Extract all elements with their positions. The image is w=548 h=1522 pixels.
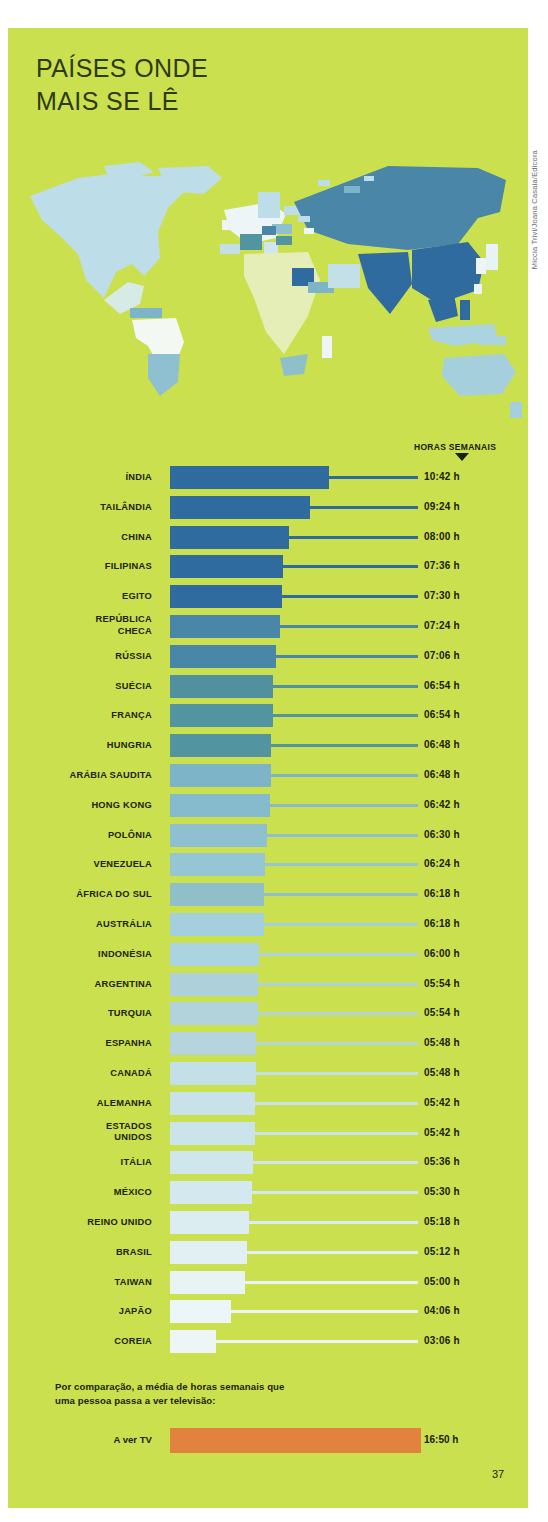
table-row: RÚSSIA07:06 h bbox=[8, 645, 528, 671]
value-bar bbox=[170, 973, 258, 996]
bar-connector-line bbox=[258, 1012, 418, 1015]
value-label: 05:48 h bbox=[424, 1037, 524, 1048]
bar-connector-line bbox=[310, 506, 418, 509]
bar-connector-line bbox=[245, 1281, 418, 1284]
country-label: CANADÁ bbox=[8, 1068, 152, 1080]
country-label: ITÁLIA bbox=[8, 1157, 152, 1169]
country-label-line: COREIA bbox=[8, 1336, 152, 1348]
value-label: 06:42 h bbox=[424, 799, 524, 810]
value-bar bbox=[170, 466, 329, 489]
tv-comparison-row: A ver TV 16:50 h bbox=[8, 1428, 528, 1458]
tv-row-value: 16:50 h bbox=[424, 1434, 524, 1445]
country-label: MÉXICO bbox=[8, 1187, 152, 1199]
country-label-line: HONG KONG bbox=[8, 800, 152, 812]
value-bar bbox=[170, 853, 265, 876]
value-bar bbox=[170, 734, 271, 757]
value-bar bbox=[170, 943, 259, 966]
country-label-line: ÁFRICA DO SUL bbox=[8, 889, 152, 901]
country-label-line: RÚSSIA bbox=[8, 651, 152, 663]
country-label-line: UNIDOS bbox=[8, 1132, 152, 1144]
value-bar bbox=[170, 1122, 255, 1145]
value-label: 05:36 h bbox=[424, 1156, 524, 1167]
poster-panel: PAÍSES ONDE MAIS SE LÊ bbox=[8, 28, 528, 1508]
country-label: INDONÉSIA bbox=[8, 949, 152, 961]
value-label: 06:18 h bbox=[424, 888, 524, 899]
value-bar bbox=[170, 615, 280, 638]
country-label: REINO UNIDO bbox=[8, 1217, 152, 1229]
country-label: EGITO bbox=[8, 591, 152, 603]
bar-connector-line bbox=[282, 595, 418, 598]
table-row: ITÁLIA05:36 h bbox=[8, 1151, 528, 1177]
value-bar bbox=[170, 645, 276, 668]
value-label: 05:54 h bbox=[424, 1007, 524, 1018]
country-label: HUNGRIA bbox=[8, 740, 152, 752]
country-label-line: AUSTRÁLIA bbox=[8, 919, 152, 931]
bar-connector-line bbox=[289, 536, 418, 539]
country-label-line: ALEMANHA bbox=[8, 1098, 152, 1110]
value-bar bbox=[170, 1330, 216, 1353]
country-label-line: TURQUIA bbox=[8, 1008, 152, 1020]
country-label-line: ARÁBIA SAUDITA bbox=[8, 770, 152, 782]
country-label-line: TAILÂNDIA bbox=[8, 502, 152, 514]
table-row: ESPANHA05:48 h bbox=[8, 1032, 528, 1058]
country-label-line: JAPÃO bbox=[8, 1306, 152, 1318]
bar-connector-line bbox=[256, 1072, 418, 1075]
table-row: ALEMANHA05:42 h bbox=[8, 1092, 528, 1118]
bar-connector-line bbox=[271, 744, 418, 747]
value-bar bbox=[170, 496, 310, 519]
value-label: 06:48 h bbox=[424, 739, 524, 750]
value-bar bbox=[170, 1241, 247, 1264]
value-label: 05:48 h bbox=[424, 1067, 524, 1078]
country-label: POLÔNIA bbox=[8, 830, 152, 842]
table-row: CANADÁ05:48 h bbox=[8, 1062, 528, 1088]
tv-row-label: A ver TV bbox=[8, 1434, 152, 1445]
value-bar bbox=[170, 675, 273, 698]
bar-connector-line bbox=[280, 625, 418, 628]
value-label: 05:54 h bbox=[424, 978, 524, 989]
country-label: AUSTRÁLIA bbox=[8, 919, 152, 931]
value-bar bbox=[170, 794, 270, 817]
value-label: 06:54 h bbox=[424, 709, 524, 720]
bar-connector-line bbox=[264, 923, 418, 926]
bar-connector-line bbox=[267, 834, 418, 837]
country-label-line: INDONÉSIA bbox=[8, 949, 152, 961]
bar-connector-line bbox=[258, 983, 418, 986]
value-label: 07:24 h bbox=[424, 620, 524, 631]
value-bar bbox=[170, 764, 271, 787]
country-label-line: BRASIL bbox=[8, 1247, 152, 1259]
bar-connector-line bbox=[231, 1310, 418, 1313]
bar-connector-line bbox=[247, 1251, 418, 1254]
value-bar bbox=[170, 526, 289, 549]
table-row: AUSTRÁLIA06:18 h bbox=[8, 913, 528, 939]
country-label: BRASIL bbox=[8, 1247, 152, 1259]
country-label-line: CHINA bbox=[8, 532, 152, 544]
country-label-line: MÉXICO bbox=[8, 1187, 152, 1199]
country-label: SUÉCIA bbox=[8, 681, 152, 693]
value-bar bbox=[170, 883, 264, 906]
value-label: 07:36 h bbox=[424, 560, 524, 571]
bar-connector-line bbox=[276, 655, 418, 658]
table-row: BRASIL05:12 h bbox=[8, 1241, 528, 1267]
value-label: 06:30 h bbox=[424, 829, 524, 840]
value-label: 06:54 h bbox=[424, 680, 524, 691]
value-bar bbox=[170, 1211, 249, 1234]
tv-bar bbox=[170, 1428, 421, 1453]
country-label: ÁFRICA DO SUL bbox=[8, 889, 152, 901]
value-label: 08:00 h bbox=[424, 531, 524, 542]
country-label: ARGENTINA bbox=[8, 979, 152, 991]
bar-connector-line bbox=[252, 1191, 418, 1194]
bar-connector-line bbox=[256, 1042, 418, 1045]
bar-connector-line bbox=[259, 953, 418, 956]
country-label: COREIA bbox=[8, 1336, 152, 1348]
value-bar bbox=[170, 1032, 256, 1055]
bar-connector-line bbox=[273, 714, 418, 717]
country-label: ARÁBIA SAUDITA bbox=[8, 770, 152, 782]
table-row: VENEZUELA06:24 h bbox=[8, 853, 528, 879]
value-label: 09:24 h bbox=[424, 501, 524, 512]
country-label: FILIPINAS bbox=[8, 561, 152, 573]
country-label: RÚSSIA bbox=[8, 651, 152, 663]
table-row: TAIWAN05:00 h bbox=[8, 1271, 528, 1297]
country-label-line: VENEZUELA bbox=[8, 859, 152, 871]
table-row: POLÔNIA06:30 h bbox=[8, 824, 528, 850]
country-label: JAPÃO bbox=[8, 1306, 152, 1318]
